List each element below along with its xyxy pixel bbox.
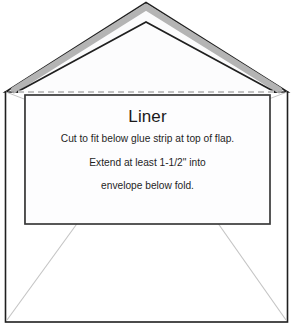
envelope-diagram-svg	[0, 0, 292, 332]
envelope-liner-diagram: Liner Cut to fit below glue strip at top…	[0, 0, 292, 332]
flap-base-mask	[18, 91, 274, 94]
liner-rectangle	[25, 95, 270, 224]
envelope-flap-inner	[17, 22, 275, 92]
